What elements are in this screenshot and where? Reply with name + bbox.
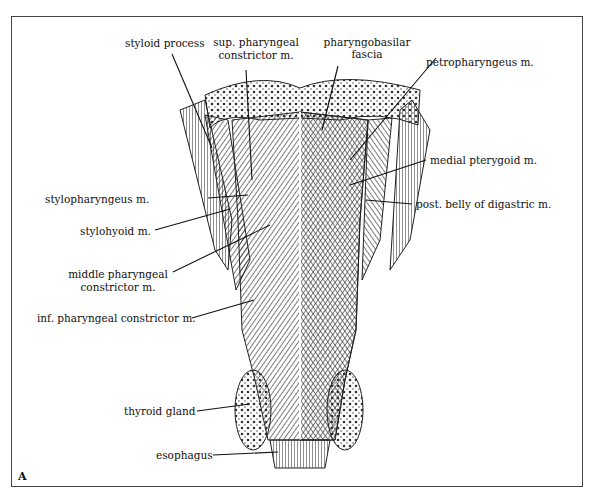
label-pharyngobasilar-2: fascia (322, 48, 412, 60)
label-thyroid-gland: thyroid gland (124, 405, 196, 417)
label-stylohyoid: stylohyoid m. (80, 225, 151, 237)
pharynx-illustration (0, 0, 589, 497)
label-middle-constrictor-1: middle pharyngeal (66, 268, 170, 280)
label-esophagus: esophagus (156, 449, 213, 461)
label-sup-constrictor-1: sup. pharyngeal (206, 36, 306, 48)
label-petropharyngeus: petropharyngeus m. (426, 56, 534, 68)
label-stylopharyngeus: stylopharyngeus m. (45, 193, 149, 205)
panel-letter: A (18, 470, 27, 483)
label-medial-pterygoid: medial pterygoid m. (430, 154, 537, 166)
label-sup-constrictor-2: constrictor m. (206, 49, 306, 61)
label-styloid-process: styloid process (125, 37, 205, 49)
label-post-digastric: post. belly of digastric m. (416, 198, 551, 210)
label-pharyngobasilar-1: pharyngobasilar (322, 36, 412, 48)
label-inf-constrictor: inf. pharyngeal constrictor m. (37, 312, 196, 324)
label-middle-constrictor-2: constrictor m. (66, 281, 170, 293)
